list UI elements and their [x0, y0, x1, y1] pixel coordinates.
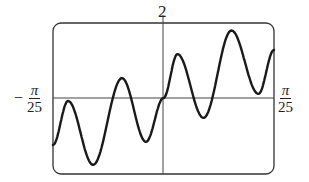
x-min-label: π 25	[27, 83, 42, 116]
x-max-label: π 25	[278, 83, 293, 116]
x-max-numerator: π	[280, 83, 292, 99]
chart-canvas	[0, 0, 309, 182]
y-max-label: 2	[158, 3, 167, 20]
x-min-sign: −	[14, 89, 23, 107]
x-max-denominator: 25	[278, 99, 293, 116]
x-min-denominator: 25	[27, 99, 42, 116]
x-min-numerator: π	[29, 83, 41, 99]
